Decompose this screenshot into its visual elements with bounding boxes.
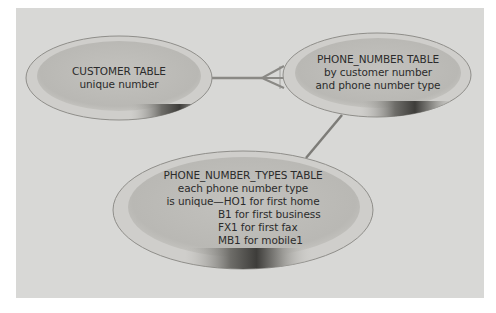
entity-detail: and phone number type: [303, 79, 453, 92]
entity-detail: each phone number type: [143, 182, 343, 195]
entity-detail: unique number: [49, 78, 189, 91]
relationship-types-phone-number: [306, 115, 342, 158]
entity-title: CUSTOMER TABLE: [49, 65, 189, 78]
type-code-line: MB1 for mobile1: [218, 234, 348, 247]
er-diagram-canvas: [0, 0, 496, 313]
entity-title: PHONE_NUMBER_TYPES TABLE: [143, 169, 343, 182]
entity-detail: is unique—HO1 for first home: [143, 195, 343, 208]
type-code-line: B1 for first business: [218, 208, 348, 221]
entity-detail: by customer number: [303, 66, 453, 79]
type-code-line: FX1 for first fax: [218, 221, 348, 234]
relationship-customer-phone-number: [212, 66, 286, 89]
entity-phone-number-label: PHONE_NUMBER TABLE by customer number an…: [303, 53, 453, 92]
entity-customer-label: CUSTOMER TABLE unique number: [49, 65, 189, 91]
entity-phone-number-types-codes: B1 for first business FX1 for first fax …: [218, 208, 348, 247]
entity-phone-number-types-label: PHONE_NUMBER_TYPES TABLE each phone numb…: [143, 169, 343, 208]
entity-title: PHONE_NUMBER TABLE: [303, 53, 453, 66]
